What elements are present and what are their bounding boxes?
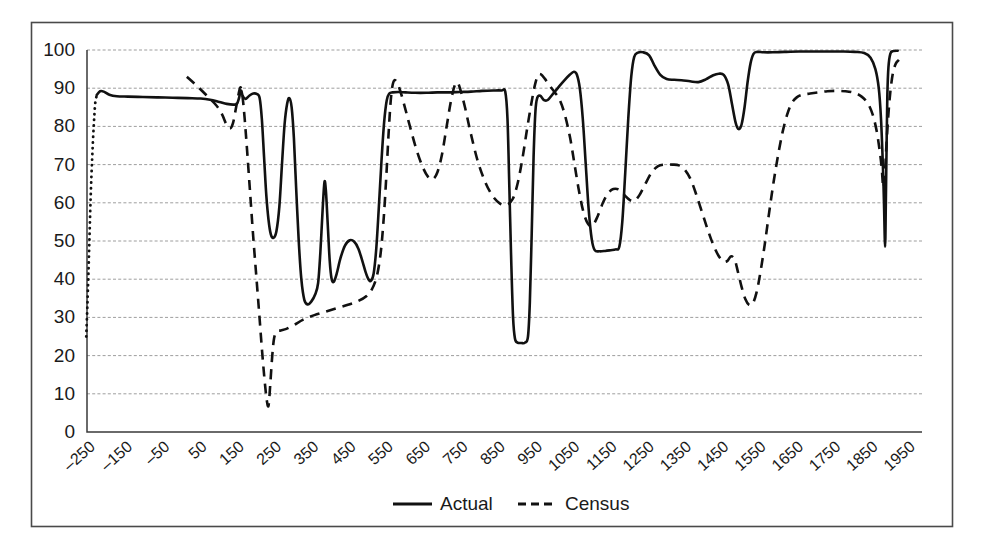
y-tick-label-10: 10 — [54, 383, 75, 404]
y-tick-label-50: 50 — [54, 230, 75, 251]
legend-label-actual: Actual — [440, 493, 493, 514]
y-tick-label-80: 80 — [54, 115, 75, 136]
y-tick-label-70: 70 — [54, 154, 75, 175]
y-tick-label-20: 20 — [54, 345, 75, 366]
y-tick-label-0: 0 — [64, 421, 75, 442]
y-tick-label-30: 30 — [54, 306, 75, 327]
chart-figure: 0102030405060708090100 –250–150–50501502… — [0, 0, 984, 555]
y-tick-label-60: 60 — [54, 192, 75, 213]
y-tick-label-90: 90 — [54, 77, 75, 98]
legend-label-census: Census — [565, 493, 629, 514]
y-tick-label-40: 40 — [54, 268, 75, 289]
y-tick-label-100: 100 — [43, 39, 75, 60]
